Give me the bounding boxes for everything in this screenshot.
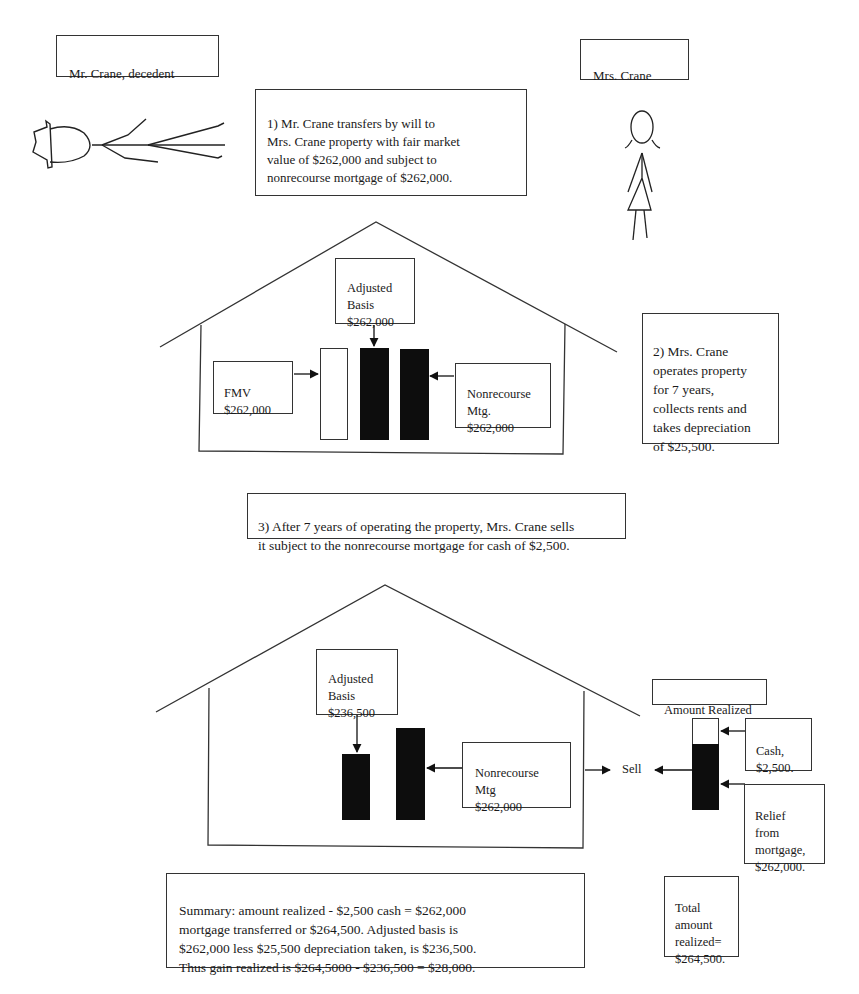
adjusted-basis-bar-1: [360, 348, 389, 440]
total-realized-box: Total amount realized= $264,500.: [664, 876, 739, 957]
relief-box: Relief from mortgage, $262,000.: [744, 784, 825, 864]
decedent-label: Mr. Crane, decedent: [56, 35, 219, 77]
relief-bar: [692, 744, 719, 810]
step-2-box: 2) Mrs. Crane operates property for 7 ye…: [642, 313, 779, 444]
step-3-box: 3) After 7 years of operating the proper…: [247, 493, 626, 539]
cash-box: Cash, $2,500.: [745, 718, 812, 771]
wife-label: Mrs. Crane: [580, 39, 689, 80]
mortgage-box-1: Nonrecourse Mtg. $262,000: [455, 363, 551, 428]
fmv-box: FMV $262,000: [213, 361, 293, 414]
sell-label: Sell: [622, 762, 641, 777]
decedent-figure-icon: [33, 119, 225, 168]
mortgage-bar-2: [396, 728, 425, 820]
adjusted-basis-box-1: Adjusted Basis $262,000: [335, 258, 415, 324]
cash-bar: [692, 718, 719, 746]
mortgage-box-2: Nonrecourse Mtg $262,000: [462, 742, 571, 808]
summary-box: Summary: amount realized - $2,500 cash =…: [166, 873, 585, 968]
amount-realized-title: Amount Realized: [652, 679, 767, 705]
fmv-bar: [320, 348, 348, 440]
wife-figure-icon: [625, 111, 660, 240]
adjusted-basis-bar-2: [342, 754, 370, 820]
mortgage-bar-1: [400, 349, 429, 440]
step-1-box: 1) Mr. Crane transfers by will to Mrs. C…: [255, 89, 527, 196]
adjusted-basis-box-2: Adjusted Basis $236,500: [316, 649, 398, 715]
